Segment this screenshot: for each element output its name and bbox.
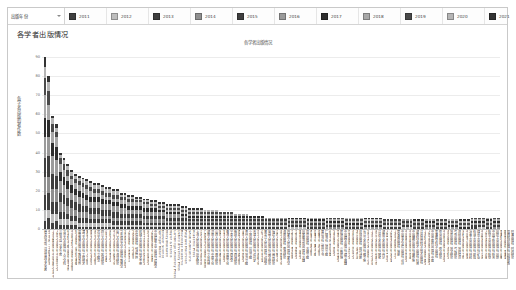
legend-swatch-icon <box>489 13 496 20</box>
bar-segment <box>497 227 500 229</box>
y-axis-tick: 90 <box>30 55 40 59</box>
legend-swatch-icon <box>363 13 370 20</box>
x-axis-label-text: 时事出版社·时政研究 <box>510 230 514 259</box>
dashboard-panel: 出版年份 20112012201320142015201620172018201… <box>7 7 508 279</box>
stacked-bar[interactable] <box>497 218 500 229</box>
y-axis-tick: 0 <box>30 227 40 231</box>
y-axis-tick: 50 <box>30 131 40 135</box>
legend-item-2018[interactable]: 2018 <box>359 8 401 24</box>
legend-swatch-icon <box>195 13 202 20</box>
legend-swatch-icon <box>153 13 160 20</box>
legend-swatch-icon <box>69 13 76 20</box>
legend-item-label: 2015 <box>247 14 258 19</box>
legend-item-label: 2016 <box>289 14 300 19</box>
legend-swatch-icon <box>447 13 454 20</box>
legend-item-label: 2019 <box>415 14 426 19</box>
legend-swatch-icon <box>405 13 412 20</box>
bar-series[interactable] <box>43 57 500 229</box>
plot-area: 0102030405060708090 <box>30 57 500 229</box>
publication-year-dropdown[interactable]: 出版年份 <box>8 8 65 24</box>
legend-swatch-icon <box>237 13 244 20</box>
legend-item-2012[interactable]: 2012 <box>107 8 149 24</box>
filter-legend-bar: 出版年份 20112012201320142015201620172018201… <box>8 8 507 25</box>
y-axis-tick: 10 <box>30 208 40 212</box>
legend-item-label: 2021 <box>499 14 510 19</box>
legend-item-2017[interactable]: 2017 <box>317 8 359 24</box>
chart-subtitle: 各学者出版情况 <box>8 40 507 46</box>
legend-item-label: 2012 <box>121 14 132 19</box>
legend-item-2021[interactable]: 2021 <box>485 8 516 24</box>
screenshot-root: 出版年份 20112012201320142015201620172018201… <box>0 0 516 290</box>
legend-item-label: 2014 <box>205 14 216 19</box>
y-axis-title: 各学者出版的著作数 <box>16 96 21 186</box>
page-title: 各学者出版情况 <box>17 30 69 39</box>
legend-item-2013[interactable]: 2013 <box>149 8 191 24</box>
bar-column[interactable] <box>497 57 501 229</box>
legend-swatch-icon <box>111 13 118 20</box>
x-axis-labels: 商务印书馆·汉译世界学术名著中华书局·二十四史点校本上海古籍出版社·中国古典文学… <box>43 230 513 286</box>
legend-item-label: 2020 <box>457 14 468 19</box>
legend-item-2015[interactable]: 2015 <box>233 8 275 24</box>
legend-item-2019[interactable]: 2019 <box>401 8 443 24</box>
dropdown-label: 出版年份 <box>11 14 28 19</box>
legend-item-2016[interactable]: 2016 <box>275 8 317 24</box>
y-axis-tick: 40 <box>30 151 40 155</box>
legend-item-label: 2013 <box>163 14 174 19</box>
legend-swatch-icon <box>279 13 286 20</box>
legend-item-label: 2017 <box>331 14 342 19</box>
legend-item-2014[interactable]: 2014 <box>191 8 233 24</box>
y-axis-tick: 80 <box>30 74 40 78</box>
legend-item-2020[interactable]: 2020 <box>443 8 485 24</box>
y-axis-tick: 20 <box>30 189 40 193</box>
legend-swatch-icon <box>321 13 328 20</box>
legend-item-2011[interactable]: 2011 <box>65 8 107 24</box>
legend[interactable]: 2011201220132014201520162017201820192020… <box>65 8 516 24</box>
y-axis-tick: 60 <box>30 112 40 116</box>
y-axis-tick: 70 <box>30 93 40 97</box>
x-axis-label: 时事出版社·时政研究 <box>510 230 514 286</box>
legend-item-label: 2018 <box>373 14 384 19</box>
chevron-down-icon <box>57 15 61 17</box>
y-axis-tick: 30 <box>30 170 40 174</box>
legend-item-label: 2011 <box>79 14 90 19</box>
